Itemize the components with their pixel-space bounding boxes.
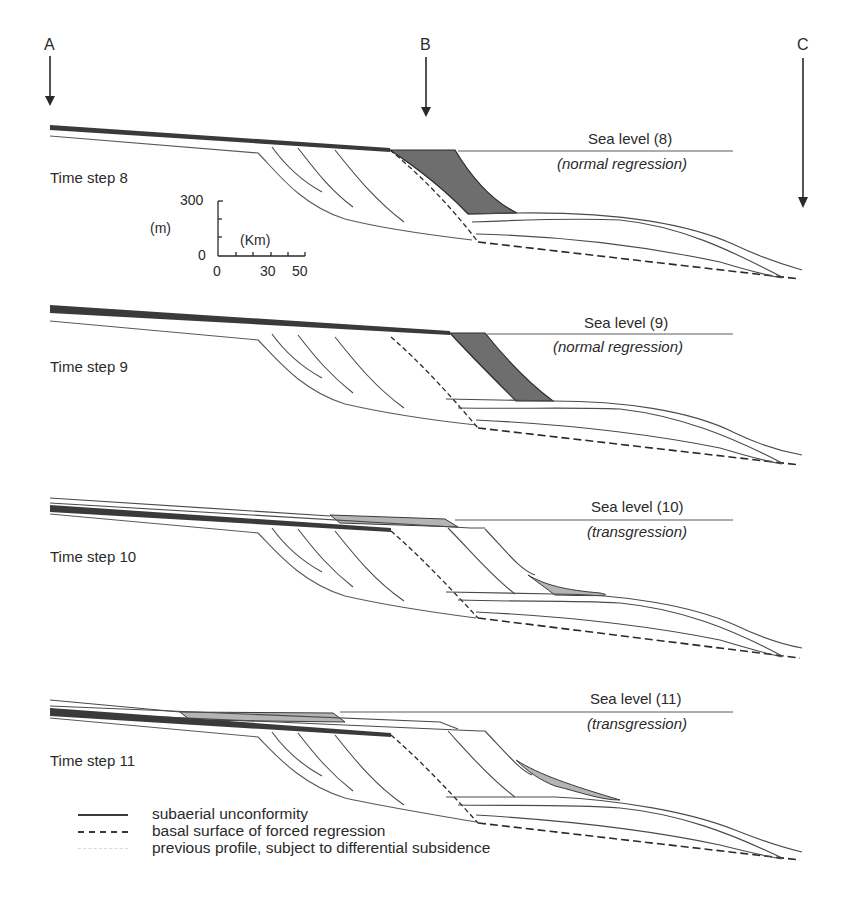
panel-time-step-8 bbox=[50, 125, 802, 279]
time-step-label: Time step 11 bbox=[50, 752, 135, 769]
regime-label: (transgression) bbox=[587, 523, 687, 540]
legend-label: basal surface of forced regression bbox=[152, 822, 385, 839]
sea-level-label: Sea level (8) bbox=[588, 130, 672, 147]
regime-label: (normal regression) bbox=[553, 338, 683, 355]
marker-label-c: C bbox=[797, 36, 809, 54]
scale-x-0: 0 bbox=[213, 263, 221, 279]
legend-item-unconformity: subaerial unconformity bbox=[78, 805, 308, 823]
scale-x-50: 50 bbox=[292, 263, 308, 279]
dashed-line-icon bbox=[78, 831, 128, 833]
faint-line-icon bbox=[78, 848, 128, 849]
arrow-b-icon bbox=[421, 57, 431, 117]
cross-section-drawing bbox=[0, 0, 844, 923]
legend-label: subaerial unconformity bbox=[152, 805, 308, 822]
arrow-a-icon bbox=[45, 56, 55, 106]
legend-item-basal-surface: basal surface of forced regression bbox=[78, 822, 385, 840]
marker-label-a: A bbox=[44, 36, 55, 54]
sea-level-label: Sea level (9) bbox=[584, 314, 668, 331]
regime-label: (transgression) bbox=[587, 715, 687, 732]
panel-time-step-9 bbox=[50, 305, 802, 465]
time-step-label: Time step 10 bbox=[50, 548, 136, 565]
scale-y-max: 300 bbox=[180, 192, 203, 208]
legend-item-previous-profile: previous profile, subject to differentia… bbox=[78, 839, 490, 857]
sea-level-label: Sea level (10) bbox=[591, 498, 684, 515]
panel-time-step-10 bbox=[50, 498, 802, 658]
time-step-label: Time step 9 bbox=[50, 358, 128, 375]
scale-x-unit: (Km) bbox=[240, 232, 270, 248]
stratigraphy-figure: A B C 300 (m) (Km) 0 0 30 50 Time step 8… bbox=[0, 0, 844, 923]
scale-x-30: 30 bbox=[260, 263, 276, 279]
scale-y-unit: (m) bbox=[150, 220, 171, 236]
legend-label: previous profile, subject to differentia… bbox=[152, 839, 490, 856]
scale-y-min: 0 bbox=[198, 247, 206, 263]
arrow-c-icon bbox=[798, 58, 808, 208]
regime-label: (normal regression) bbox=[557, 155, 687, 172]
time-step-label: Time step 8 bbox=[50, 169, 128, 186]
solid-line-icon bbox=[78, 814, 128, 816]
sea-level-label: Sea level (11) bbox=[590, 690, 681, 707]
marker-label-b: B bbox=[420, 36, 431, 54]
